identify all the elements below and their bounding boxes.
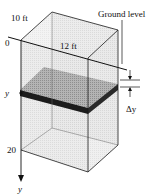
axis-arrow-icon <box>18 175 24 182</box>
diagram-canvas: 10 ft 12 ft Ground level 0 y 20 y Δy <box>0 0 158 194</box>
label-length: 12 ft <box>60 41 77 51</box>
label-bottom-depth: 20 <box>7 145 17 155</box>
arrow-down-icon <box>128 76 132 80</box>
label-axis-y: y <box>17 184 22 194</box>
label-width: 10 ft <box>11 13 28 23</box>
label-depth-y: y <box>4 88 9 98</box>
label-ground-level: Ground level <box>98 9 146 19</box>
arrow-up-icon <box>128 87 132 91</box>
label-origin: 0 <box>5 38 10 48</box>
delta-y-dimension <box>120 70 140 97</box>
label-delta-y: Δy <box>126 104 137 114</box>
tank-slab-diagram: 10 ft 12 ft Ground level 0 y 20 y Δy <box>0 0 158 194</box>
depth-point-marker <box>19 91 22 94</box>
